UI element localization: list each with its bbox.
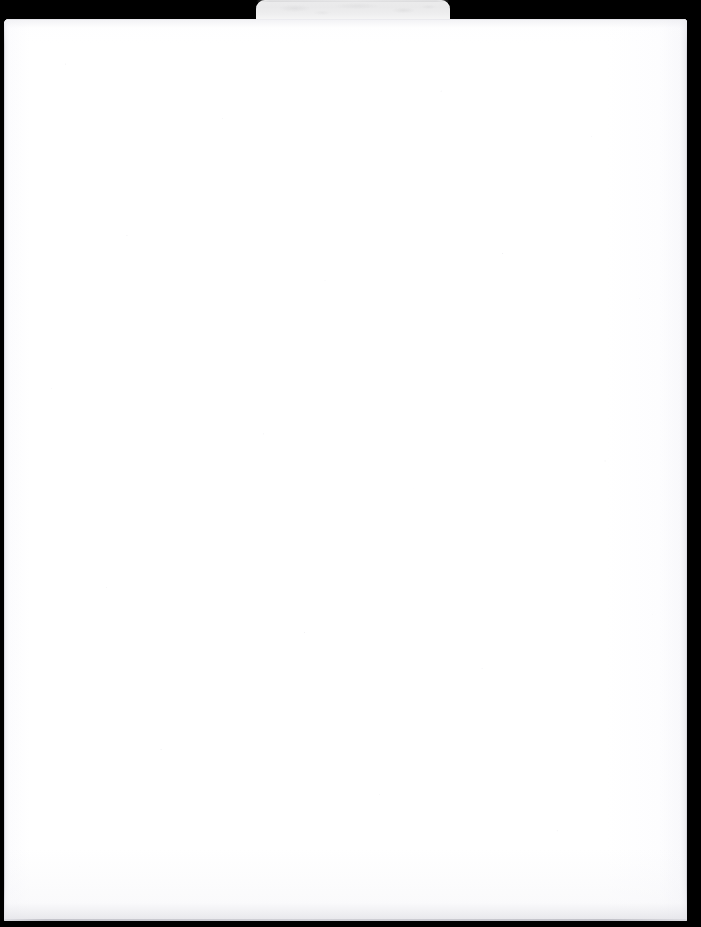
page-edge-top (4, 19, 687, 20)
page-edge-bottom (4, 919, 687, 921)
scanned-document-viewport (0, 0, 701, 927)
scanned-page-sheet (4, 19, 687, 921)
page-content-area (52, 75, 639, 865)
page-index-tab-texture (256, 0, 450, 20)
page-index-tab (256, 0, 450, 20)
page-edge-left (4, 19, 5, 921)
page-edge-right (686, 19, 687, 921)
